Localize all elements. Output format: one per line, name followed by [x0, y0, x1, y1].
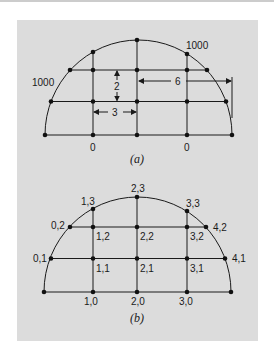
node-label-0-2: 0,2 — [51, 220, 65, 231]
dim-6-label: 6 — [175, 76, 181, 87]
caption-a: (a) — [130, 152, 144, 166]
label-left-arc-1000: 1000 — [32, 77, 55, 88]
semicircle-boundary-a — [45, 40, 232, 135]
labels-a: 1000 1000 0 0 2 3 6 (a) — [32, 40, 209, 166]
node-label-3-1: 3,1 — [190, 263, 204, 274]
caption-b: (b) — [130, 311, 144, 325]
node-label-3-2: 3,2 — [190, 231, 204, 242]
node-label-0-1: 0,1 — [33, 253, 47, 264]
node-label-1-0: 1,0 — [84, 296, 98, 307]
diagram-b — [44, 197, 231, 292]
diagram-a — [45, 40, 232, 135]
labels-b: 1,3 2,3 3,3 0,2 1,2 2,2 3,2 4,2 0,1 1,1 … — [33, 183, 246, 325]
dim-3-label: 3 — [112, 107, 118, 118]
node-label-1-3: 1,3 — [81, 196, 95, 207]
node-label-3-0: 3,0 — [179, 296, 193, 307]
node-label-2-2: 2,2 — [140, 231, 154, 242]
node-label-3-3: 3,3 — [186, 198, 200, 209]
node-label-4-2: 4,2 — [213, 222, 227, 233]
nodes-a — [43, 38, 235, 138]
node-label-1-2: 1,2 — [96, 231, 110, 242]
label-right-arc-1000: 1000 — [186, 40, 209, 51]
label-bottom-0-right: 0 — [184, 142, 190, 153]
node-label-2-3: 2,3 — [131, 183, 145, 194]
label-bottom-0-left: 0 — [90, 142, 96, 153]
dim-2-label: 2 — [114, 81, 120, 92]
node-label-1-1: 1,1 — [96, 263, 110, 274]
node-label-2-1: 2,1 — [140, 263, 154, 274]
node-label-2-0: 2,0 — [131, 296, 145, 307]
node-label-4-1: 4,1 — [232, 253, 246, 264]
figure-svg: 1000 1000 0 0 2 3 6 (a) — [0, 0, 274, 360]
